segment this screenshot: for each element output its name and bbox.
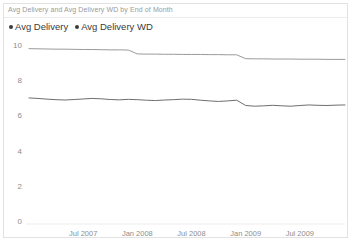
line-series-avg-delivery xyxy=(29,98,345,106)
line-series-avg-delivery-wd xyxy=(29,49,345,60)
series-lines xyxy=(4,4,347,237)
chart-container: Avg Delivery and Avg Delivery WD by End … xyxy=(3,3,348,238)
plot-area: 0246810 Jul 2007Jan 2008Jul 2008Jan 2009… xyxy=(4,4,347,237)
